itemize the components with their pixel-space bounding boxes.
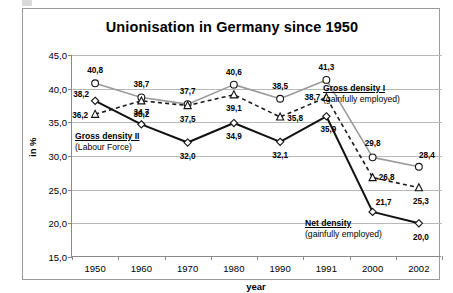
data-point-marker xyxy=(230,91,237,98)
x-tick-label: 1960 xyxy=(131,263,152,274)
data-label: 34,7 xyxy=(133,108,149,117)
data-point-marker xyxy=(415,184,422,191)
chart-root: Unionisation in Germany since 1950 in % … xyxy=(0,0,453,293)
data-label: 35,8 xyxy=(287,113,303,122)
y-tick-label: 25,0 xyxy=(49,184,68,195)
chart-title: Unionisation in Germany since 1950 xyxy=(23,19,441,35)
data-label: 38,2 xyxy=(73,89,89,98)
y-tick-label: 15,0 xyxy=(49,252,68,263)
data-label: 36,2 xyxy=(72,111,88,120)
legend-gross-density-1: Gross density I (gainfully employed) xyxy=(323,83,400,104)
series-line xyxy=(95,101,419,224)
legend-gross-density-1-line2: (gainfully employed) xyxy=(323,94,400,105)
x-tick-label: 2000 xyxy=(362,263,383,274)
y-tick-label: 35,0 xyxy=(49,117,68,128)
data-label: 41,3 xyxy=(318,62,334,71)
y-tick-label: 30,0 xyxy=(49,151,68,162)
legend-net-density: Net density (gainfully employed) xyxy=(305,218,382,239)
data-label: 37,7 xyxy=(180,87,196,96)
data-label: 40,6 xyxy=(226,67,242,76)
legend-net-density-line1: Net density xyxy=(305,218,382,229)
data-label: 35,9 xyxy=(320,125,336,134)
data-label: 29,8 xyxy=(365,139,381,148)
data-label: 39,1 xyxy=(226,103,242,112)
data-point-marker xyxy=(92,80,99,87)
x-tick-label: 1950 xyxy=(85,263,106,274)
data-label: 38,5 xyxy=(272,81,288,90)
y-tick-label: 20,0 xyxy=(49,218,68,229)
x-tick-label: 1970 xyxy=(177,263,198,274)
data-point-marker xyxy=(415,220,422,227)
y-axis-title: in % xyxy=(27,137,38,157)
legend-gross-density-1-line1: Gross density I xyxy=(323,83,400,94)
x-tick-label: 1991 xyxy=(316,263,337,274)
data-point-marker xyxy=(230,81,237,88)
data-point-marker xyxy=(230,119,237,126)
legend-gross-density-2-line2: (Labour Force) xyxy=(75,142,139,153)
y-tick-label: 45,0 xyxy=(49,50,68,61)
legend-gross-density-2: Gross density II (Labour Force) xyxy=(75,131,139,152)
data-label: 32,1 xyxy=(272,150,288,159)
x-tick-label: 1980 xyxy=(223,263,244,274)
data-label: 34,9 xyxy=(226,132,242,141)
data-point-marker xyxy=(184,139,191,146)
data-point-marker xyxy=(415,163,422,170)
data-label: 25,3 xyxy=(413,196,429,205)
data-label: 26,8 xyxy=(379,172,395,181)
x-tick-mark xyxy=(442,256,443,260)
x-tick-label: 2002 xyxy=(408,263,429,274)
data-label: 28,4 xyxy=(419,150,435,159)
data-point-marker xyxy=(138,121,145,128)
data-label: 32,0 xyxy=(180,151,196,160)
data-label: 20,0 xyxy=(413,233,429,242)
data-label: 38,7 xyxy=(304,93,320,102)
legend-net-density-line2: (gainfully employed) xyxy=(305,229,382,240)
data-label: 21,7 xyxy=(376,197,392,206)
data-label: 38,7 xyxy=(133,80,149,89)
x-axis-title: year xyxy=(71,281,441,292)
data-point-marker xyxy=(277,95,284,102)
data-point-marker xyxy=(369,208,376,215)
data-point-marker xyxy=(92,97,99,104)
legend-gross-density-2-line1: Gross density II xyxy=(75,131,139,142)
data-label: 40,8 xyxy=(87,66,103,75)
data-label: 37,5 xyxy=(180,114,196,123)
y-tick-label: 40,0 xyxy=(49,83,68,94)
data-point-marker xyxy=(369,154,376,161)
chart-frame: Unionisation in Germany since 1950 in % … xyxy=(22,8,440,280)
corner-artifact xyxy=(22,0,32,6)
x-tick-label: 1990 xyxy=(270,263,291,274)
